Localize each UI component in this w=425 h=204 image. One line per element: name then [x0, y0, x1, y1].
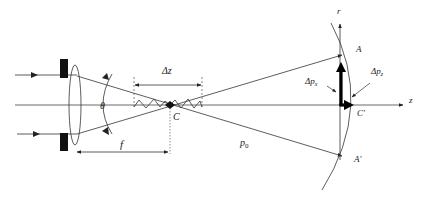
delta-pz-label: Δpz: [370, 66, 384, 77]
r-axis-label: r: [337, 6, 341, 16]
point-a-prime-label: A': [353, 154, 362, 164]
converging-ray-lower: [77, 55, 342, 134]
theta-label: θ: [100, 100, 105, 111]
delta-pz-leader: [352, 83, 370, 97]
converging-ray-upper: [77, 76, 342, 156]
ray-direction-arrow-icon: [31, 72, 38, 78]
focal-length-label: f: [120, 138, 125, 150]
focus-label: C: [173, 111, 180, 122]
point-c-prime-label: C': [357, 108, 366, 118]
delta-px-label: Δpx: [304, 76, 318, 87]
z-axis-label: z: [408, 95, 413, 105]
aperture-stop-bottom: [60, 133, 68, 151]
aperture-stop-top: [60, 59, 68, 78]
optical-focus-diagram: θ Δz C f p0 r z A A' C' Δpx Δpz: [0, 0, 425, 204]
arc-arrow-icon: [102, 127, 109, 135]
delta-px-leader: [327, 86, 336, 92]
point-a-label: A: [355, 44, 362, 54]
delta-z-label: Δz: [161, 65, 172, 76]
ray-direction-arrow-icon: [33, 131, 40, 137]
arc-arrow-icon: [102, 73, 109, 80]
p0-label: p0: [239, 137, 249, 150]
